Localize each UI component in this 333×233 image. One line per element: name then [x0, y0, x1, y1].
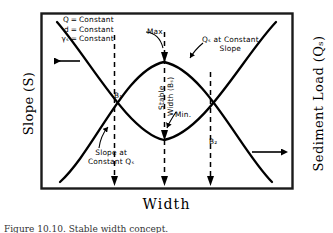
- annotation-stable: Stable: [157, 85, 166, 110]
- annotation-b1: B₁: [114, 91, 122, 100]
- annotation-slope-constant-qs-line1: Slope at: [95, 148, 127, 157]
- annotation-b2: B₂: [209, 137, 217, 146]
- annotation-width-bs: Width (Bₛ): [166, 77, 175, 116]
- legend-symbol: d: [56, 25, 69, 34]
- legend-symbol: Q: [56, 15, 69, 24]
- legend-equals: =: [69, 25, 79, 34]
- legend-value: Constant: [79, 34, 114, 43]
- legend-value: Constant: [79, 25, 114, 34]
- legend-symbol: γₛ: [56, 34, 69, 43]
- figure-root: Slope (S) Sediment Load (Qₛ): [0, 0, 333, 233]
- legend-row: Q = Constant: [56, 15, 114, 25]
- annotation-qs-constant-slope: Qₛ at Constant Slope: [202, 35, 259, 53]
- x-axis-title: Width: [0, 196, 333, 212]
- legend-block: Q = Constant d = Constant γₛ = Constant: [56, 15, 114, 44]
- annotation-slope-constant-qs: Slope at Constant Qₛ: [88, 148, 134, 166]
- legend-equals: =: [69, 15, 79, 24]
- legend-row: γₛ = Constant: [56, 34, 114, 44]
- annotation-qs-constant-slope-line2: Slope: [202, 44, 259, 53]
- legend-row: d = Constant: [56, 25, 114, 35]
- legend-equals: =: [69, 34, 79, 43]
- annotation-slope-constant-qs-line2: Constant Qₛ: [88, 157, 134, 166]
- legend-value: Constant: [79, 15, 114, 24]
- figure-caption: Figure 10.10. Stable width concept.: [4, 224, 329, 233]
- annotation-qs-constant-slope-line1: Qₛ at Constant: [202, 35, 259, 44]
- annotation-max: Max: [147, 27, 163, 36]
- annotation-min: Min.: [175, 110, 191, 119]
